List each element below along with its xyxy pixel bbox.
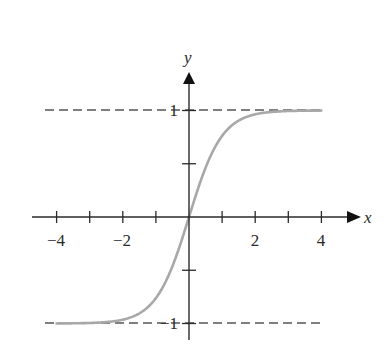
x-tick-label-2: 2 (251, 231, 260, 250)
y-tick-label-neg1: −1 (160, 314, 178, 333)
x-tick-label-neg2: −2 (113, 231, 131, 250)
y-tick-label-1: 1 (170, 101, 179, 120)
x-tick-label-4: 4 (317, 231, 326, 250)
x-axis-arrow-icon (347, 211, 361, 223)
y-axis-arrow-icon (183, 72, 195, 84)
x-axis-label: x (363, 208, 372, 227)
y-axis-label: y (182, 48, 192, 67)
tanh-chart: x y −4 −2 2 4 1 −1 (0, 0, 392, 356)
x-tick-label-neg4: −4 (47, 231, 66, 250)
